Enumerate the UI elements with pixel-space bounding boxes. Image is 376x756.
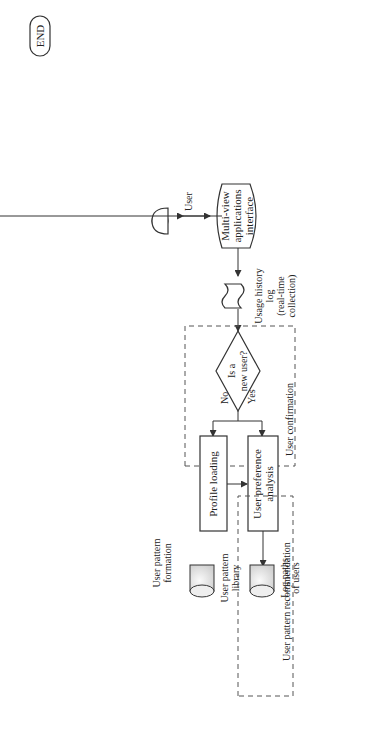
svg-text:applications: applications [231,189,243,242]
flowchart-diagram: User Multi-view applications interface U… [0,0,376,756]
user-pattern-recommendation-label: User pattern recommendation [281,542,292,661]
user-confirmation-label: User confirmation [284,383,295,456]
user-pattern-library-db: User pattern library [190,553,241,602]
profile-loading-box[interactable]: Profile loading [200,436,227,531]
no-label: No [219,392,230,404]
multi-view-interface[interactable]: Multi-view applications interface [217,184,256,248]
svg-text:Profile loading: Profile loading [207,451,219,517]
svg-text:log: log [264,290,275,303]
user-pattern-formation-label: User pattern [151,538,162,587]
svg-text:library: library [230,565,241,592]
svg-text:new user?: new user? [238,350,249,391]
usage-history-log: Usage history log (real-time collection) [222,268,298,323]
user-label: User [183,191,194,211]
svg-text:Is a: Is a [226,363,237,378]
svg-text:collection): collection) [286,275,298,318]
user-preference-analysis-box[interactable]: User preference analysis [248,436,278,531]
user-icon [152,208,168,234]
svg-text:User pattern: User pattern [219,553,230,602]
svg-text:Usage history: Usage history [253,268,264,323]
yes-label: Yes [246,389,257,404]
svg-text:formation: formation [162,543,173,582]
svg-text:interface: interface [243,197,255,236]
end-terminal: END [30,16,50,56]
svg-text:END: END [34,25,46,48]
svg-text:User preference: User preference [251,449,263,519]
